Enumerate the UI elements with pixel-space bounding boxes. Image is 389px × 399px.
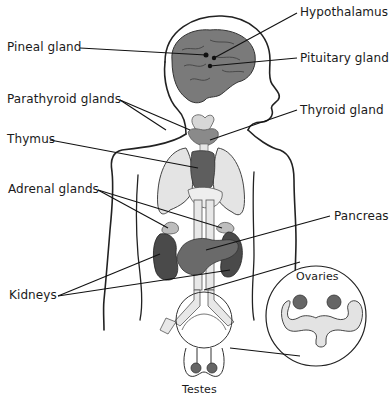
label-pineal-gland: Pineal gland [7,40,82,54]
label-pancreas: Pancreas [334,209,389,223]
brain [172,30,255,103]
label-thyroid-gland: Thyroid gland [300,103,384,117]
label-ovaries: Ovaries [296,270,339,283]
testes [184,348,224,376]
label-parathyroid-glands: Parathyroid glands [7,92,121,106]
label-adrenal-glands: Adrenal glands [8,182,99,196]
label-testes: Testes [182,383,217,396]
label-hypothalamus: Hypothalamus [300,5,388,19]
thymus [191,151,215,191]
label-kidneys: Kidneys [9,288,57,302]
label-thymus: Thymus [7,132,55,146]
pelvic-region [160,290,234,334]
label-pituitary-gland: Pituitary gland [300,51,389,65]
